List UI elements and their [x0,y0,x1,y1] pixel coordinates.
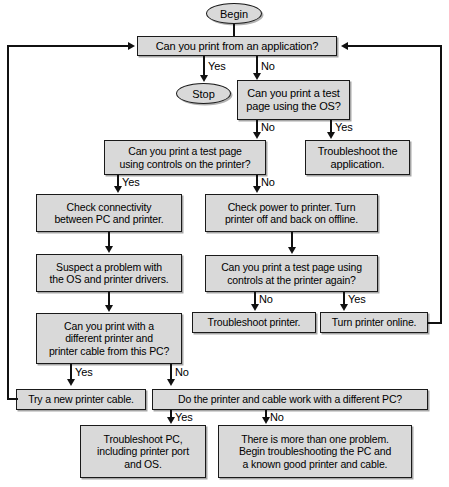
node-troubleshoot-pc[interactable]: Troubleshoot PC, including printer port … [80,425,206,478]
node-more-than-one-problem-label: There is more than one problem. Begin tr… [239,433,391,470]
node-troubleshoot-printer-label: Troubleshoot printer. [208,316,301,328]
node-check-power-to-printer-label: Check power to printer. Turn printer off… [225,201,358,226]
loop-left-top-segment [7,45,128,47]
arrowhead-check-conn-to-suspect [105,246,113,253]
edge-label-diff-printer-yes: Yes [75,366,93,378]
node-check-connectivity-label: Check connectivity between PC and printe… [54,201,163,226]
node-suspect-os-driver-problem-label: Suspect a problem with the OS and printe… [49,261,168,286]
arrowhead-q-app-to-stop [200,75,208,82]
arrowhead-q-diff-pc-to-more-than-one [262,417,270,424]
edge-label-ctrl-again-yes: Yes [348,293,366,305]
node-troubleshoot-the-application-label: Troubleshoot the application. [318,145,398,171]
node-begin-label: Begin [220,8,248,20]
node-stop-label: Stop [192,88,215,100]
loop-right-vertical-segment [440,45,442,324]
node-can-print-different-printer-cable-label: Can you print with a different printer a… [49,320,169,357]
arrowhead-check-power-to-ctrl-again [288,247,296,254]
flowchart-canvas: Begin Can you print from an application?… [0,0,449,487]
arrowhead-loop-right-to-q-app [341,42,348,50]
loop-left-vertical-segment [7,45,9,399]
arrowhead-q-os-to-ts-app [327,132,335,139]
node-more-than-one-problem[interactable]: There is more than one problem. Begin tr… [218,425,412,478]
arrowhead-q-diff-pc-to-ts-pc [167,417,175,424]
node-can-print-test-page-os-label: Can you print a test page using the OS? [246,87,341,113]
edge-label-diff-pc-yes: Yes [175,411,193,423]
arrowhead-q-diff-printer-to-q-diff-pc [167,379,175,386]
node-troubleshoot-the-application[interactable]: Troubleshoot the application. [305,140,410,175]
node-can-print-test-page-printer-controls[interactable]: Can you print a test page using controls… [104,140,266,175]
node-can-print-different-printer-cable[interactable]: Can you print with a different printer a… [36,313,182,364]
edge-label-app-no: No [261,60,275,72]
node-turn-printer-online-label: Turn printer online. [332,316,417,328]
arrowhead-q-app-to-q-os [253,73,261,80]
node-turn-printer-online[interactable]: Turn printer online. [320,312,428,333]
arrowhead-ctrl-to-check-power [253,186,261,193]
arrowhead-loop-left-to-q-app [128,42,135,50]
edge-q-app-to-q-os [256,56,258,74]
edge-label-printer-ctrl-no: No [261,176,275,188]
edge-label-os-yes: Yes [335,121,353,133]
node-try-new-printer-cable[interactable]: Try a new printer cable. [16,389,146,410]
arrowhead-ctrl-again-to-ts-printer [251,304,259,311]
edge-label-printer-ctrl-yes: Yes [122,176,140,188]
arrowhead-ctrl-again-to-turn-online [340,304,348,311]
node-check-connectivity[interactable]: Check connectivity between PC and printe… [36,194,182,232]
node-can-print-test-page-printer-again[interactable]: Can you print a test page using controls… [205,255,378,292]
edge-label-ctrl-again-no: No [259,293,273,305]
edge-begin-to-q-app [233,24,235,36]
node-check-power-to-printer[interactable]: Check power to printer. Turn printer off… [205,194,378,232]
edge-label-diff-pc-no: No [270,411,284,423]
node-troubleshoot-pc-label: Troubleshoot PC, including printer port … [97,433,189,470]
loop-right-top-segment [348,45,441,47]
node-suspect-os-driver-problem[interactable]: Suspect a problem with the OS and printe… [36,254,182,292]
edge-label-app-yes: Yes [208,60,226,72]
arrowhead-q-diff-printer-to-try-cable [67,379,75,386]
node-stop[interactable]: Stop [176,83,231,104]
node-can-print-test-page-printer-again-label: Can you print a test page using controls… [221,261,362,286]
node-troubleshoot-printer[interactable]: Troubleshoot printer. [192,312,316,333]
node-can-print-from-application[interactable]: Can you print from an application? [137,36,337,56]
node-can-print-test-page-printer-controls-label: Can you print a test page using controls… [120,145,251,170]
arrowhead-ctrl-to-check-conn [114,186,122,193]
edge-label-diff-printer-no: No [175,366,189,378]
node-can-print-from-application-label: Can you print from an application? [156,40,318,53]
node-can-print-test-page-os[interactable]: Can you print a test page using the OS? [237,80,350,120]
edge-label-os-no: No [261,121,275,133]
node-begin[interactable]: Begin [206,3,262,24]
node-printer-cable-work-different-pc-label: Do the printer and cable work with a dif… [178,393,402,405]
edge-q-app-to-stop [203,56,205,77]
arrowhead-q-os-to-ctrl [253,132,261,139]
node-printer-cable-work-different-pc[interactable]: Do the printer and cable work with a dif… [152,389,428,410]
node-try-new-printer-cable-label: Try a new printer cable. [28,393,134,405]
arrowhead-suspect-to-q-diff-printer [105,305,113,312]
